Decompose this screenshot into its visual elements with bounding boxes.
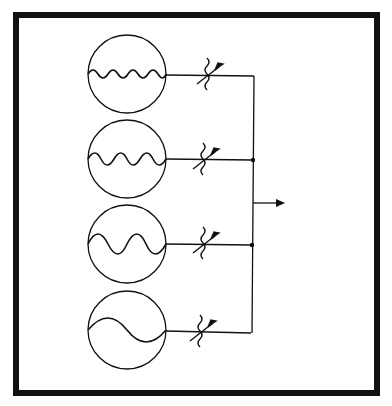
- output-arrow-icon: [276, 199, 285, 207]
- junction-dot-1: [251, 158, 255, 162]
- variable-resistor-icons: [190, 58, 223, 347]
- variable-resistor-icon-4: [190, 315, 216, 347]
- waveform-4: [88, 318, 166, 342]
- lead-4: [166, 331, 251, 333]
- circuit-diagram: [0, 0, 392, 406]
- waveform-3: [88, 234, 166, 254]
- lead-3: [166, 244, 252, 245]
- waveform-1: [88, 70, 166, 78]
- diagram-canvas: [0, 0, 392, 406]
- lead-2: [166, 159, 252, 160]
- oscillator-display-1: [88, 35, 166, 113]
- variable-resistor-icon-1: [197, 58, 223, 90]
- variable-resistor-icon-3: [193, 227, 219, 259]
- summing-bus: [252, 76, 254, 333]
- waveform-2: [88, 153, 166, 165]
- junction-dot-2: [250, 243, 254, 247]
- lead-1: [166, 75, 254, 76]
